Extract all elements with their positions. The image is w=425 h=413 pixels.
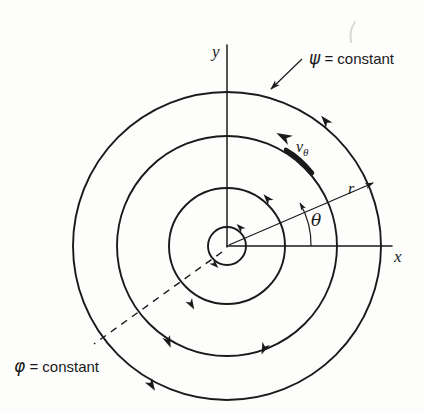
flow-arrow-outer-upper-right (318, 113, 332, 128)
scan-artifact-mark (351, 22, 356, 42)
x-axis-label: x (394, 248, 402, 265)
psi-symbol: ψ (309, 48, 320, 68)
phi-equals-constant-text: = constant (25, 358, 99, 375)
psi-equals-constant-text: = constant (320, 50, 394, 67)
v-theta-label: vθ (296, 139, 309, 158)
figure-container: y x ψ = constant φ = constant vθ r θ (0, 0, 425, 413)
v-theta-arrowhead (274, 128, 293, 145)
theta-angle-arc (300, 203, 311, 246)
y-axis-label: y (212, 43, 220, 60)
phi-symbol: φ (14, 356, 25, 376)
flow-arrow-inner-middle-bottom-left (185, 298, 197, 311)
radius-label: r (348, 181, 354, 197)
v-theta-subscript: θ (303, 146, 308, 158)
psi-constant-label: ψ = constant (309, 50, 394, 67)
phi-constant-label: φ = constant (14, 358, 99, 375)
theta-label: θ (311, 212, 321, 229)
psi-leader-line-group (271, 59, 302, 89)
psi-leader-arrow (271, 59, 302, 89)
theta-angle-arc-group (300, 203, 311, 246)
flow-arrow-outer-bottom-left (145, 378, 159, 393)
axis-lines (227, 45, 392, 247)
